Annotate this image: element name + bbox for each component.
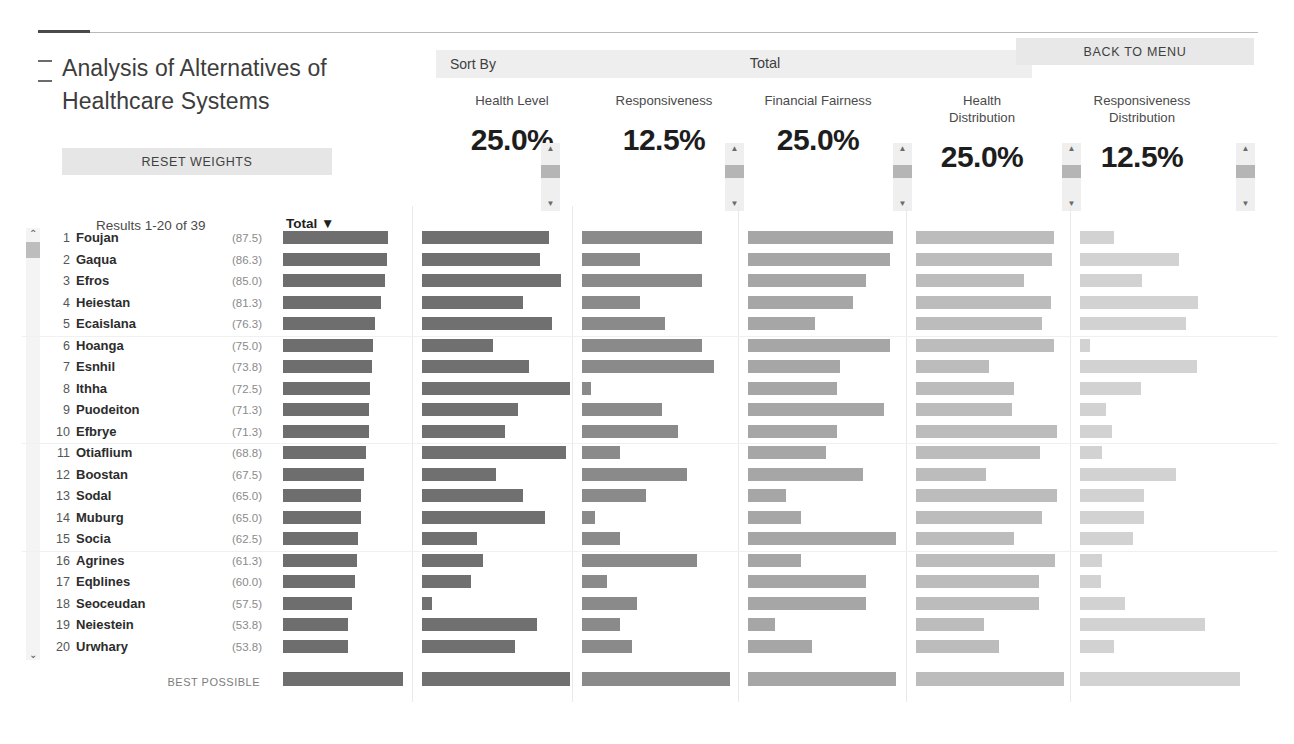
- table-row[interactable]: 18Seoceudan(57.5): [0, 594, 1294, 616]
- spinner-thumb[interactable]: [1236, 165, 1255, 178]
- row-name: Boostan: [76, 467, 128, 482]
- bar-financial-fairness: [748, 640, 812, 653]
- row-name: Foujan: [76, 230, 119, 245]
- bar-health-distribution: [916, 640, 999, 653]
- criterion-weight-value: 12.5%: [1068, 140, 1216, 174]
- bar-responsiveness-distribution: [1080, 317, 1186, 330]
- chevron-down-icon[interactable]: ▼: [1242, 198, 1250, 211]
- bar-financial-fairness: [748, 253, 890, 266]
- row-total-score: (61.3): [212, 555, 262, 567]
- row-rank: 15: [46, 532, 70, 546]
- bar-responsiveness-distribution: [1080, 446, 1102, 459]
- chevron-down-icon[interactable]: ▼: [547, 198, 555, 211]
- back-to-menu-button[interactable]: BACK TO MENU: [1016, 38, 1254, 65]
- bar-responsiveness-distribution: [1080, 274, 1142, 287]
- weight-spinner-5[interactable]: ▲▼: [1236, 143, 1255, 211]
- best-possible-row: [0, 672, 1294, 688]
- bar-total: [283, 618, 348, 631]
- bar-health-distribution: [916, 554, 1055, 567]
- table-row[interactable]: 1Foujan(87.5): [0, 228, 1294, 250]
- criterion-weight-value: 25.0%: [744, 123, 892, 157]
- table-row[interactable]: 17Eqblines(60.0): [0, 572, 1294, 594]
- criterion-header-2: Responsiveness12.5%: [590, 92, 738, 157]
- bar-health-level: [422, 425, 505, 438]
- best-bar-financial-fairness: [748, 672, 896, 686]
- bar-health-distribution: [916, 468, 986, 481]
- bar-health-distribution: [916, 317, 1042, 330]
- collapse-dash-2: [38, 80, 52, 82]
- bar-responsiveness: [582, 511, 595, 524]
- bar-health-level: [422, 511, 545, 524]
- table-row[interactable]: 16Agrines(61.3): [0, 551, 1294, 573]
- weight-spinner-2[interactable]: ▲▼: [725, 143, 744, 211]
- criterion-header-4: HealthDistribution25.0%: [908, 92, 1056, 174]
- row-name: Ithha: [76, 381, 107, 396]
- spinner-thumb[interactable]: [725, 165, 744, 178]
- results-table: 1Foujan(87.5)2Gaqua(86.3)3Efros(85.0)4He…: [0, 228, 1294, 658]
- criterion-weight-value: 25.0%: [438, 123, 586, 157]
- table-row[interactable]: 5Ecaislana(76.3): [0, 314, 1294, 336]
- table-row[interactable]: 6Hoanga(75.0): [0, 336, 1294, 358]
- table-row[interactable]: 19Neiestein(53.8): [0, 615, 1294, 637]
- table-row[interactable]: 10Efbrye(71.3): [0, 422, 1294, 444]
- row-total-score: (81.3): [212, 297, 262, 309]
- table-row[interactable]: 14Muburg(65.0): [0, 508, 1294, 530]
- bar-health-distribution: [916, 618, 984, 631]
- row-total-score: (68.8): [212, 447, 262, 459]
- row-total-score: (86.3): [212, 254, 262, 266]
- bar-health-distribution: [916, 532, 1014, 545]
- table-row[interactable]: 11Otiaflium(68.8): [0, 443, 1294, 465]
- row-total-score: (76.3): [212, 318, 262, 330]
- row-total-score: (75.0): [212, 340, 262, 352]
- chevron-up-icon[interactable]: ▲: [547, 143, 555, 156]
- bar-responsiveness-distribution: [1080, 231, 1114, 244]
- table-row[interactable]: 12Boostan(67.5): [0, 465, 1294, 487]
- criterion-name: Responsiveness: [590, 92, 738, 109]
- chevron-down-icon[interactable]: ▼: [1068, 198, 1076, 211]
- bar-responsiveness: [582, 360, 714, 373]
- table-row[interactable]: 20Urwhary(53.8): [0, 637, 1294, 659]
- bar-health-level: [422, 554, 483, 567]
- bar-total: [283, 231, 388, 244]
- bar-responsiveness: [582, 425, 678, 438]
- chevron-up-icon[interactable]: ▲: [731, 143, 739, 156]
- bar-health-level: [422, 253, 540, 266]
- sort-by-label: Sort By: [450, 56, 496, 72]
- table-row[interactable]: 13Sodal(65.0): [0, 486, 1294, 508]
- bar-responsiveness-distribution: [1080, 618, 1205, 631]
- bar-total: [283, 425, 369, 438]
- bar-health-distribution: [916, 511, 1042, 524]
- weight-spinner-1[interactable]: ▲▼: [541, 143, 560, 211]
- bar-responsiveness: [582, 575, 607, 588]
- bar-health-distribution: [916, 360, 989, 373]
- dashboard-root: Analysis of Alternatives of Healthcare S…: [0, 0, 1294, 744]
- bar-total: [283, 468, 364, 481]
- row-rank: 7: [46, 360, 70, 374]
- table-row[interactable]: 2Gaqua(86.3): [0, 250, 1294, 272]
- bar-financial-fairness: [748, 403, 884, 416]
- bar-financial-fairness: [748, 511, 801, 524]
- collapse-panel-icon[interactable]: [38, 60, 54, 100]
- table-row[interactable]: 3Efros(85.0): [0, 271, 1294, 293]
- row-total-score: (53.8): [212, 641, 262, 653]
- sort-by-value[interactable]: Total: [700, 55, 830, 71]
- bar-responsiveness-distribution: [1080, 403, 1106, 416]
- reset-weights-button[interactable]: RESET WEIGHTS: [62, 148, 332, 175]
- table-row[interactable]: 7Esnhil(73.8): [0, 357, 1294, 379]
- row-total-score: (85.0): [212, 275, 262, 287]
- row-total-score: (60.0): [212, 576, 262, 588]
- table-row[interactable]: 8Ithha(72.5): [0, 379, 1294, 401]
- table-row[interactable]: 9Puodeiton(71.3): [0, 400, 1294, 422]
- row-rank: 3: [46, 274, 70, 288]
- bar-total: [283, 274, 385, 287]
- bar-total: [283, 489, 361, 502]
- bar-total: [283, 339, 373, 352]
- chevron-up-icon[interactable]: ▲: [1242, 143, 1250, 156]
- bar-financial-fairness: [748, 597, 866, 610]
- row-name: Heiestan: [76, 295, 130, 310]
- table-row[interactable]: 15Socia(62.5): [0, 529, 1294, 551]
- table-row[interactable]: 4Heiestan(81.3): [0, 293, 1294, 315]
- chevron-up-icon[interactable]: ▲: [899, 143, 907, 156]
- spinner-thumb[interactable]: [541, 165, 560, 178]
- bar-health-level: [422, 597, 432, 610]
